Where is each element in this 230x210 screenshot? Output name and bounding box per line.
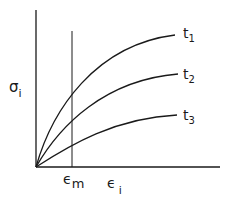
epsilon-m-label: ϵm: [63, 171, 84, 191]
curve-t3: [36, 115, 177, 167]
y-axis-label: σi: [9, 78, 22, 100]
curve-t3-label: t3: [183, 107, 195, 126]
x-axis-label: ϵi: [107, 175, 122, 197]
diagram-canvas: σi t1 t2 t3 ϵm ϵi: [0, 0, 230, 210]
curve-t2-label: t2: [183, 66, 195, 85]
curve-t2: [36, 74, 178, 167]
curve-t1: [36, 35, 175, 167]
curve-t1-label: t1: [183, 25, 195, 44]
